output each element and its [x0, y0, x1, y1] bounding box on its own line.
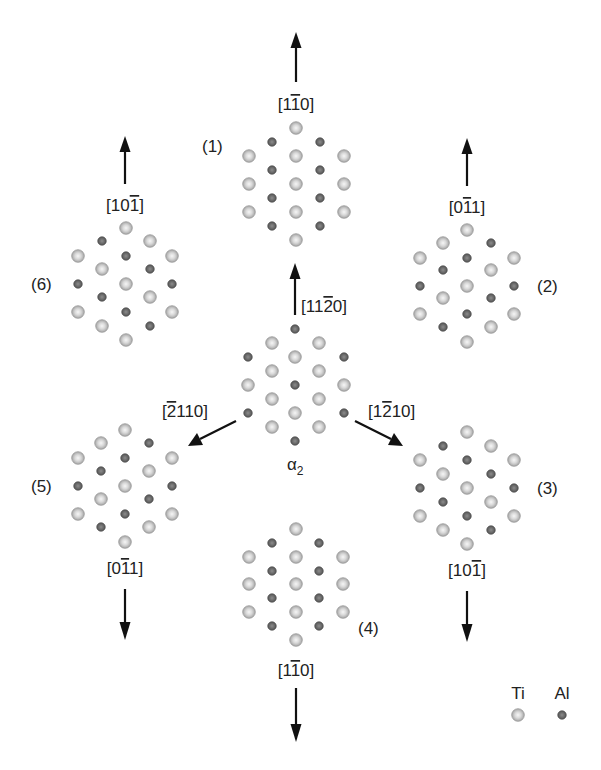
- ti-atom-icon: [166, 306, 179, 319]
- al-atom-icon: [487, 526, 496, 535]
- alpha2-center-atom-cluster: [242, 325, 351, 446]
- al-atom-icon: [145, 439, 154, 448]
- ti-atom-icon: [143, 465, 156, 478]
- arrow-down-icon: [120, 622, 131, 640]
- ti-atom-icon: [119, 480, 132, 493]
- ti-atom-icon: [337, 551, 350, 564]
- ti-atom-icon: [313, 337, 326, 350]
- al-atom-icon: [244, 353, 253, 362]
- al-atom-icon: [463, 310, 472, 319]
- ti-atom-icon: [437, 292, 450, 305]
- al-atom-icon: [439, 323, 448, 332]
- al-atom-icon: [340, 409, 349, 418]
- ti-atom-icon: [119, 536, 132, 549]
- ti-atom-icon: [72, 306, 85, 319]
- ti-atom-icon: [313, 421, 326, 434]
- al-atom-icon: [121, 510, 130, 519]
- ti-atom-icon: [290, 178, 303, 191]
- arrow-up-icon: [291, 32, 302, 48]
- ti-atom-icon: [290, 606, 303, 619]
- center-right-arrow: [355, 421, 403, 446]
- ti-atom-icon: [437, 524, 450, 537]
- al-atom-icon: [340, 353, 349, 362]
- ti-atom-icon: [243, 150, 256, 163]
- al-atom-icon: [316, 194, 325, 203]
- ti-atom-icon: [337, 578, 350, 591]
- al-atom-icon: [97, 523, 106, 532]
- al-atom-icon: [439, 266, 448, 275]
- alpha2-variant-diagram: [110] (1) [101] (6) [011] (2) [1120] [21…: [0, 0, 601, 770]
- al-atom-icon: [168, 482, 177, 491]
- ti-atom-icon: [266, 365, 279, 378]
- ti-atom-icon: [120, 278, 133, 291]
- ti-atom-icon: [485, 264, 498, 277]
- arrow-down-icon: [291, 724, 302, 742]
- al-atom-icon: [463, 254, 472, 263]
- al-atom-icon: [315, 594, 324, 603]
- legend-al-label: Al: [554, 684, 569, 703]
- ti-atom-icon: [338, 379, 351, 392]
- al-atom-icon: [268, 594, 277, 603]
- ti-atom-icon: [166, 452, 179, 465]
- ti-atom-icon: [289, 407, 302, 420]
- variant-1-direction-label: [110]: [278, 95, 315, 114]
- legend-ti-label: Ti: [511, 684, 525, 703]
- ti-atom-icon: [72, 452, 85, 465]
- ti-atom-icon: [243, 206, 256, 219]
- ti-atom-icon: [485, 321, 498, 334]
- ti-atom-icon: [508, 510, 521, 523]
- al-atom-icon: [122, 252, 131, 261]
- center-direction-left-label: [2110]: [162, 402, 208, 421]
- al-atom-icon: [487, 239, 496, 248]
- ti-atom-icon: [120, 222, 133, 235]
- ti-atom-icon: [461, 224, 474, 237]
- ti-atom-icon: [461, 426, 474, 439]
- ti-atom-icon: [508, 454, 521, 467]
- ti-atom-icon: [313, 393, 326, 406]
- al-atom-icon: [98, 293, 107, 302]
- center-direction-up-label: [1120]: [301, 297, 347, 316]
- ti-atom-icon: [95, 493, 108, 506]
- variant-6-direction-arrow: [120, 136, 131, 184]
- ti-atom-icon: [414, 454, 427, 467]
- ti-atom-icon: [337, 606, 350, 619]
- ti-atom-icon: [414, 308, 427, 321]
- arrow-up-icon: [462, 138, 473, 154]
- al-atom-icon: [291, 381, 300, 390]
- variant-6-direction-label: [101]: [106, 196, 144, 215]
- ti-atom-icon: [461, 538, 474, 551]
- ti-atom-icon: [290, 206, 303, 219]
- al-atom-icon: [268, 567, 277, 576]
- diagram-canvas: [110] (1) [101] (6) [011] (2) [1120] [21…: [0, 0, 601, 770]
- al-atom-icon: [74, 280, 83, 289]
- legend-atoms: [512, 709, 567, 722]
- ti-atom-icon: [289, 351, 302, 364]
- al-atom-icon: [122, 308, 131, 317]
- ti-atom-icon: [144, 291, 157, 304]
- ti-atom-icon: [95, 437, 108, 450]
- ti-atom-icon: [508, 252, 521, 265]
- variant-5-direction-label: [011]: [107, 559, 144, 578]
- al-atom-icon: [463, 512, 472, 521]
- ti-atom-icon: [243, 178, 256, 191]
- ti-atom-icon: [485, 440, 498, 453]
- ti-atom-icon: [290, 150, 303, 163]
- ti-atom-icon: [508, 308, 521, 321]
- variant-4-direction-label: [110]: [278, 661, 315, 680]
- al-atom-icon: [316, 166, 325, 175]
- variant-4-atom-cluster: [243, 523, 350, 647]
- variant-1-atom-cluster: [243, 122, 351, 247]
- variant-2-direction-arrow: [462, 138, 473, 186]
- variant-5-atom-cluster: [72, 424, 179, 549]
- al-atom-icon: [146, 322, 155, 331]
- al-atom-icon: [146, 265, 155, 274]
- arrow-up-icon: [120, 136, 131, 152]
- ti-atom-icon: [96, 320, 109, 333]
- al-atom-icon: [97, 467, 106, 476]
- variant-2-label: (2): [537, 277, 558, 296]
- ti-atom-icon: [313, 365, 326, 378]
- al-atom-icon: [268, 622, 277, 631]
- ti-atom-icon: [166, 508, 179, 521]
- al-atom-icon: [315, 567, 324, 576]
- ti-atom-icon: [290, 578, 303, 591]
